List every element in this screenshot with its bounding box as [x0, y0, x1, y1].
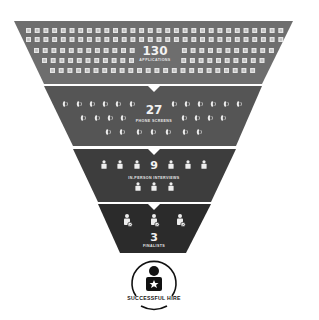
- stage-finalists-label: FINALISTS: [129, 245, 179, 249]
- document-icon: [130, 28, 135, 33]
- successful-hire-label: SUCCESSFUL HIRE: [119, 296, 189, 301]
- document-icon: [233, 68, 238, 73]
- document-icon: [146, 68, 151, 73]
- document-icon: [60, 48, 65, 53]
- document-icon: [260, 48, 265, 53]
- document-icon: [35, 28, 40, 33]
- document-icon: [172, 68, 177, 73]
- document-icon: [78, 37, 83, 42]
- document-icon: [120, 68, 125, 73]
- document-icon: [241, 68, 246, 73]
- document-icon: [224, 68, 229, 73]
- document-icon: [244, 37, 249, 42]
- document-icon: [50, 68, 55, 73]
- document-icon: [35, 37, 40, 42]
- document-icon: [190, 58, 195, 63]
- document-icon: [85, 68, 90, 73]
- document-icon: [52, 28, 57, 33]
- document-icon: [113, 28, 118, 33]
- document-icon: [51, 48, 56, 53]
- document-icon: [103, 58, 108, 63]
- document-icon: [235, 37, 240, 42]
- document-icon: [59, 58, 64, 63]
- document-icon: [69, 48, 74, 53]
- document-icon: [200, 37, 205, 42]
- document-icon: [130, 37, 135, 42]
- document-icon: [243, 48, 248, 53]
- document-icon: [104, 48, 109, 53]
- document-icon: [191, 37, 196, 42]
- document-icon: [96, 28, 101, 33]
- document-icon: [261, 28, 266, 33]
- document-icon: [87, 37, 92, 42]
- document-icon: [252, 37, 257, 42]
- document-icon: [122, 37, 127, 42]
- stage-applications-count: 130: [134, 45, 176, 57]
- document-icon: [78, 28, 83, 33]
- document-icon: [34, 48, 39, 53]
- document-icon: [207, 68, 212, 73]
- document-icon: [183, 37, 188, 42]
- document-icon: [43, 37, 48, 42]
- document-icon: [78, 48, 83, 53]
- document-icon: [226, 28, 231, 33]
- document-icon: [112, 58, 117, 63]
- document-icon: [189, 68, 194, 73]
- document-icon: [51, 58, 56, 63]
- document-icon: [122, 28, 127, 33]
- document-icon: [61, 28, 66, 33]
- badge-ring-bottom: [141, 306, 167, 310]
- document-icon: [225, 48, 230, 53]
- document-icon: [121, 48, 126, 53]
- document-icon: [165, 37, 170, 42]
- document-icon: [154, 68, 159, 73]
- document-icon: [191, 48, 196, 53]
- stage-interviews-count: 9: [144, 160, 164, 171]
- document-icon: [225, 58, 230, 63]
- hiring-funnel: 130 APPLICATIONS 27 PHONE SCREENS 9 IN-P…: [0, 0, 319, 320]
- document-icon: [137, 68, 142, 73]
- document-icon: [70, 28, 75, 33]
- document-icon: [112, 48, 117, 53]
- stage-interviews-label: IN-PERSON INTERVIEWS: [119, 177, 189, 181]
- document-icon: [128, 68, 133, 73]
- document-icon: [261, 37, 266, 42]
- document-icon: [94, 68, 99, 73]
- document-icon: [102, 68, 107, 73]
- document-icon: [208, 48, 213, 53]
- document-icon: [174, 37, 179, 42]
- document-icon: [209, 37, 214, 42]
- document-icon: [76, 68, 81, 73]
- document-icon: [70, 37, 75, 42]
- document-icon: [200, 28, 205, 33]
- person-star-icon: [146, 266, 162, 291]
- document-icon: [111, 68, 116, 73]
- document-icon: [215, 68, 220, 73]
- document-icon: [217, 28, 222, 33]
- document-icon: [43, 48, 48, 53]
- document-icon: [67, 68, 72, 73]
- document-icon: [104, 28, 109, 33]
- document-icon: [217, 48, 222, 53]
- document-icon: [198, 68, 203, 73]
- document-icon: [157, 37, 162, 42]
- document-icon: [174, 28, 179, 33]
- document-icon: [94, 58, 99, 63]
- document-icon: [59, 68, 64, 73]
- document-icon: [242, 58, 247, 63]
- document-icon: [252, 48, 257, 53]
- document-icon: [163, 68, 168, 73]
- document-icon: [113, 37, 118, 42]
- document-icon: [148, 37, 153, 42]
- document-icon: [42, 58, 47, 63]
- document-icon: [270, 28, 275, 33]
- document-icon: [87, 28, 92, 33]
- document-icon: [139, 37, 144, 42]
- document-icon: [148, 28, 153, 33]
- document-icon: [139, 28, 144, 33]
- document-icon: [260, 58, 265, 63]
- document-icon: [207, 58, 212, 63]
- document-icon: [269, 48, 274, 53]
- document-icon: [234, 48, 239, 53]
- document-icon: [61, 37, 66, 42]
